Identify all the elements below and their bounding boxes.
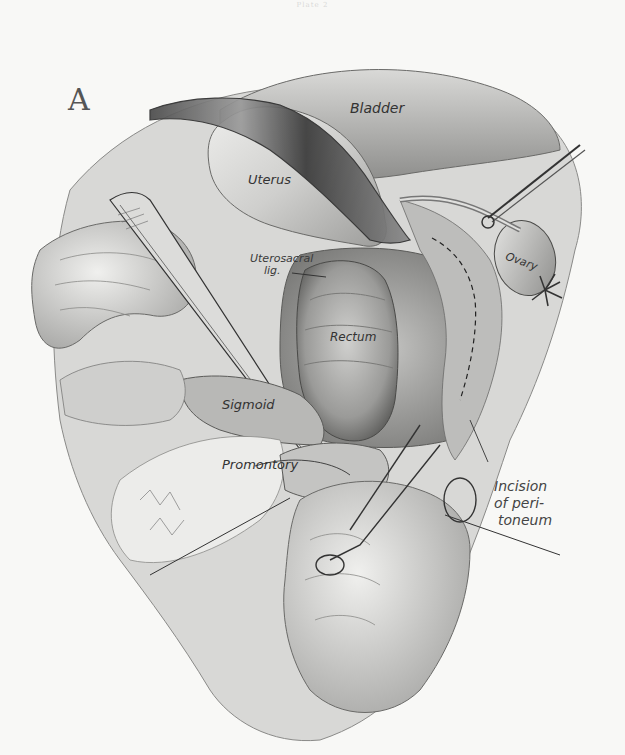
illustration-page: Plate 2 [0, 0, 625, 755]
figure-letter: A [68, 82, 89, 117]
surgical-illustration [0, 0, 625, 755]
lower-hand [284, 481, 470, 712]
label-promontory: Promontory [222, 457, 298, 472]
label-bladder: Bladder [350, 100, 404, 116]
label-uterosacral-lig: Uterosacral lig. [250, 253, 313, 277]
label-uterus: Uterus [248, 172, 291, 187]
label-sigmoid: Sigmoid [222, 397, 275, 412]
small-bowel [60, 361, 185, 425]
label-rectum: Rectum [330, 330, 376, 344]
label-incision-of-peritoneum: Incision of peri- toneum [494, 478, 552, 529]
